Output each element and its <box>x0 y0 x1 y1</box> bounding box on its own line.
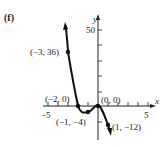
point-label-neg3-36: (−3, 36) <box>30 47 59 57</box>
y-axis-label: y <box>93 14 97 24</box>
point-label-neg2-0: (−2, 0) <box>45 94 70 104</box>
x-tick-5: 5 <box>144 110 149 120</box>
x-tick-neg5: −5 <box>41 110 51 120</box>
y-axis <box>96 14 102 140</box>
y-tick-50: 50 <box>86 25 95 35</box>
point-label-neg1-neg4: (−1, −4) <box>56 117 86 127</box>
point-label-1-neg12: (1, −12) <box>112 122 141 132</box>
point-label-0-0: (0, 0) <box>101 95 121 105</box>
x-axis-label: x <box>155 96 159 106</box>
